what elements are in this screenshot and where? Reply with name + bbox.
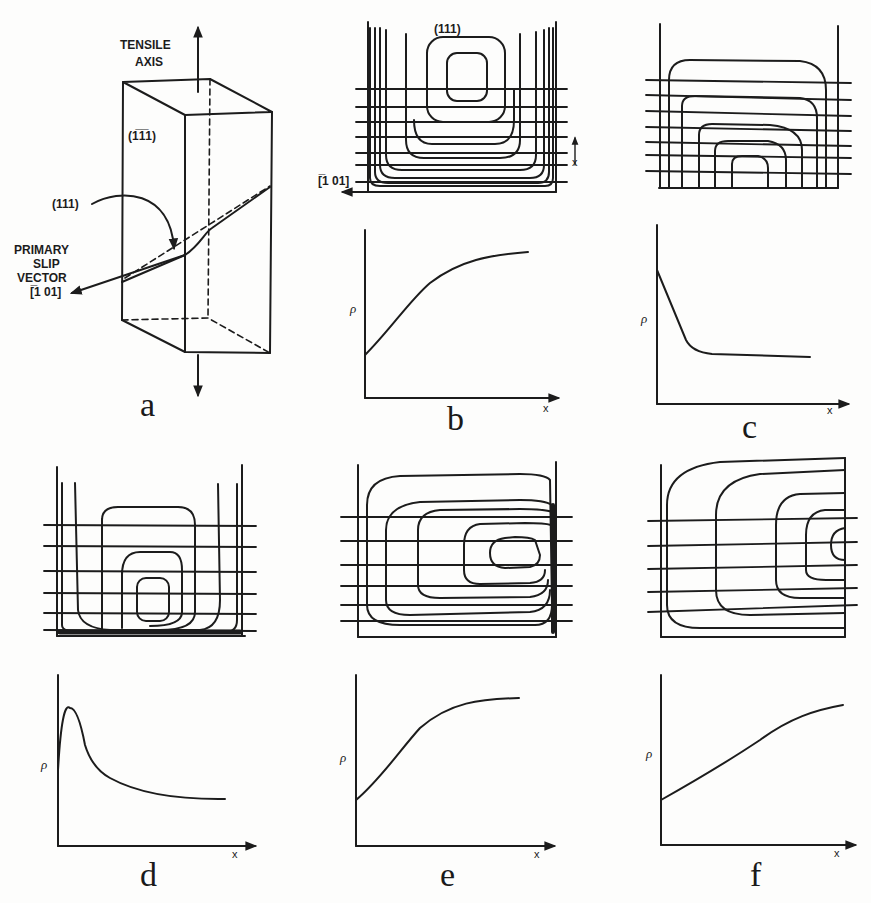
figure-page: TENSILE AXIS (1̅1̅1) (111) PRIMARY SLIP … xyxy=(0,0,871,903)
panel-b-y-axis-label: ρ xyxy=(349,301,356,316)
slip-vector-label-line2: SLIP xyxy=(33,257,60,271)
panel-b-direction-label: [̅1 01] xyxy=(318,174,349,188)
panel-e-x-axis-label: x xyxy=(534,848,540,860)
panel-e-dislocation-diagram xyxy=(341,462,572,637)
slip-vector-label-line1: PRIMARY xyxy=(14,243,69,257)
slip-plane-label: (111) xyxy=(52,197,79,211)
panel-e-y-axis-label: ρ xyxy=(339,750,346,765)
panel-letter-a: a xyxy=(140,386,155,423)
panel-c-density-plot xyxy=(657,225,848,404)
panel-f-x-axis-label: x xyxy=(834,847,840,859)
panel-letter-b: b xyxy=(447,400,464,437)
panel-d-y-axis-label: ρ xyxy=(40,757,47,772)
panel-letter-e: e xyxy=(440,856,455,893)
panel-b-density-plot xyxy=(365,230,558,398)
panel-c-x-axis-label: x xyxy=(827,404,833,416)
tensile-axis-label-line2: AXIS xyxy=(135,55,163,69)
panel-f-dislocation-diagram xyxy=(648,458,857,637)
slip-vector-index: [̅1 01] xyxy=(30,285,61,299)
panel-c-dislocation-diagram xyxy=(646,24,851,188)
slip-vector-label-line3: VECTOR xyxy=(17,271,67,285)
panel-letter-f: f xyxy=(750,856,762,893)
panel-letter-d: d xyxy=(140,856,157,893)
panel-c-y-axis-label: ρ xyxy=(640,311,647,326)
panel-letter-c: c xyxy=(742,408,757,445)
panel-e-density-plot xyxy=(356,675,554,846)
panel-d-density-plot xyxy=(58,675,255,846)
panel-f-y-axis-label: ρ xyxy=(645,746,652,761)
figure-canvas: TENSILE AXIS (1̅1̅1) (111) PRIMARY SLIP … xyxy=(0,0,871,903)
panel-d-dislocation-diagram xyxy=(44,465,256,636)
panel-f-density-plot xyxy=(661,675,855,845)
panel-a-crystal-diagram xyxy=(72,28,272,395)
panel-b-dislocation-diagram xyxy=(343,22,575,192)
tensile-axis-label: TENSILE xyxy=(120,38,171,52)
panel-d-x-axis-label: x xyxy=(232,848,238,860)
panel-b-x-axis-label: x xyxy=(543,402,549,414)
face-plane-label: (1̅1̅1) xyxy=(128,129,156,143)
panel-b-plane-label: (111) xyxy=(434,22,461,36)
panel-b-x-label: x xyxy=(572,156,578,168)
